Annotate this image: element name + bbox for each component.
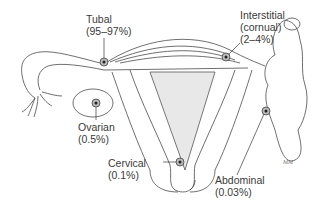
label-ovarian-percent: (0.5%) [78, 133, 115, 145]
label-cervical: Cervical (0.1%) [108, 157, 146, 181]
label-interstitial-percent: (2–4%) [240, 33, 285, 45]
label-abdominal: Abdominal (0.03%) [215, 174, 265, 198]
left-fallopian-tube [22, 52, 104, 98]
fimbriae [22, 92, 62, 117]
uterine-fundus [104, 68, 248, 70]
label-ovarian: Ovarian (0.5%) [78, 121, 115, 145]
label-cervical-percent: (0.1%) [108, 169, 146, 181]
label-tubal: Tubal (95–97%) [86, 13, 132, 37]
artist-signature: MM [282, 159, 294, 165]
label-tubal-name: Tubal [86, 13, 132, 25]
label-abdominal-percent: (0.03%) [215, 186, 265, 198]
label-abdominal-name: Abdominal [215, 174, 265, 186]
abdominal-leader [237, 114, 264, 175]
label-tubal-percent: (95–97%) [86, 25, 132, 37]
label-interstitial-subname: (cornual) [240, 21, 285, 33]
label-interstitial: Interstitial (cornual) (2–4%) [240, 9, 285, 45]
label-ovarian-name: Ovarian [78, 121, 115, 133]
endometrial-cavity [150, 72, 215, 170]
label-interstitial-name: Interstitial [240, 9, 285, 21]
label-cervical-name: Cervical [108, 157, 146, 169]
